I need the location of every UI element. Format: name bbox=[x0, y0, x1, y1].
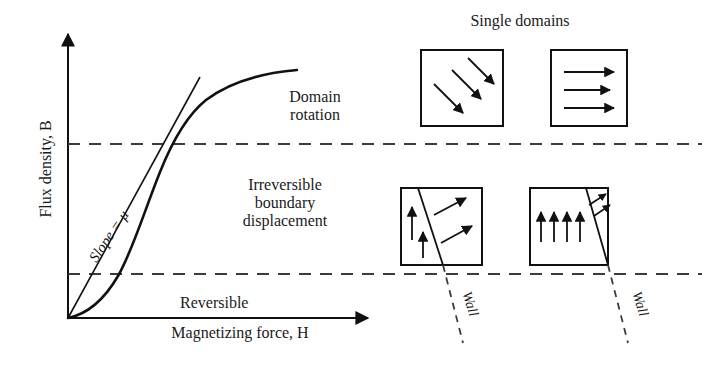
y-axis-label: Flux density, B bbox=[37, 79, 55, 259]
domain-arrow-diagonal-small-1 bbox=[589, 194, 606, 205]
domain-rotation-region-label: Domain rotation bbox=[245, 88, 385, 124]
figure-root: Flux density, B Magnetizing force, H Slo… bbox=[0, 0, 718, 369]
domain-arrow-diagonal-2 bbox=[441, 226, 472, 243]
irreversible-boundary-displacement-region-label: Irreversible boundary displacement bbox=[205, 176, 365, 230]
x-axis-label: Magnetizing force, H bbox=[100, 324, 380, 342]
single-domains-title: Single domains bbox=[440, 12, 600, 30]
domain-arrow-diagonal-3 bbox=[468, 58, 494, 84]
domain-arrow-diagonal-1 bbox=[434, 84, 463, 113]
domain-box-outline bbox=[551, 50, 627, 126]
domain-wall-line-internal bbox=[418, 188, 443, 265]
domain-box-outline bbox=[421, 50, 503, 126]
domain-box-single-horizontal bbox=[551, 50, 627, 126]
domain-arrow-diagonal-1 bbox=[434, 198, 466, 215]
reversible-region-label: Reversible bbox=[180, 294, 300, 312]
domain-arrow-diagonal-2 bbox=[452, 70, 481, 99]
domain-box-wall-right bbox=[530, 188, 628, 343]
domain-box-single-diagonal bbox=[421, 50, 503, 126]
